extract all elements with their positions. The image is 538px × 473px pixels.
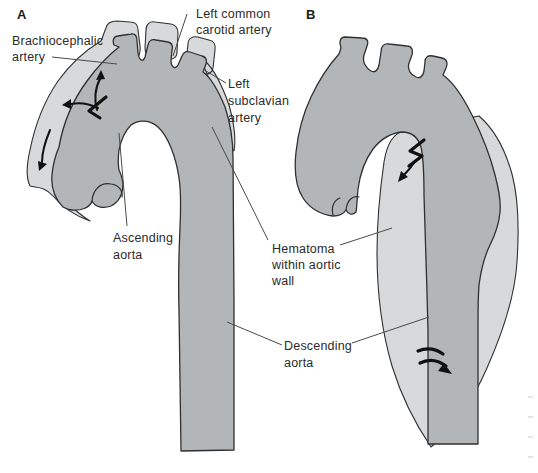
label-line: aorta [284, 356, 314, 370]
label-hematoma-within-aortic-wall: Hematoma within aortic wall [271, 242, 341, 288]
label-line: Hematoma [272, 242, 335, 256]
label-line: artery [228, 111, 262, 125]
figure-canvas: A B Brachiocephalic artery Left common c… [0, 0, 538, 473]
label-line: carotid artery [196, 23, 272, 37]
label-line: Brachiocephalic [12, 34, 103, 48]
edge-print-artifact [528, 397, 533, 457]
label-line: Left common [196, 7, 270, 21]
label-line: within aortic [271, 258, 341, 272]
label-line: Descending [284, 339, 352, 353]
label-left-subclavian-artery: Left subclavian artery [228, 77, 289, 125]
label-ascending-aorta: Ascending aorta [113, 231, 173, 262]
label-line: artery [12, 50, 46, 64]
panel-b-letter: B [306, 7, 315, 22]
aortic-hematoma-figure: A B Brachiocephalic artery Left common c… [0, 0, 538, 473]
label-line: aorta [113, 248, 143, 262]
label-line: Left [228, 77, 250, 91]
label-line: Ascending [113, 231, 173, 245]
panel-a-letter: A [17, 7, 27, 22]
label-line: wall [271, 274, 294, 288]
leader-descending-to-a [227, 322, 282, 345]
label-descending-aorta: Descending aorta [284, 339, 352, 370]
label-left-common-carotid-artery: Left common carotid artery [196, 7, 272, 37]
label-line: subclavian [228, 94, 289, 108]
